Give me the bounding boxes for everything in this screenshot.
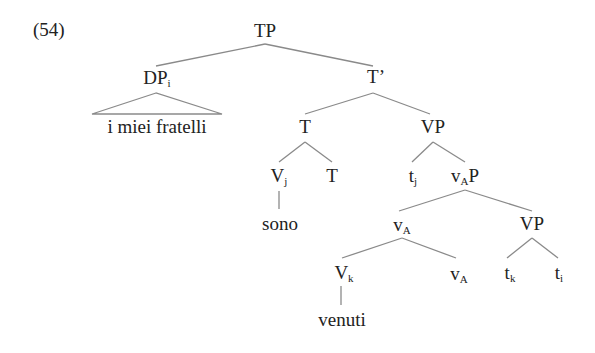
node-vap: vAP bbox=[451, 166, 479, 185]
node-tj: tj bbox=[409, 166, 417, 185]
node-vap-tail: P bbox=[468, 165, 479, 186]
node-tp-label: TP bbox=[254, 20, 276, 41]
node-t-lower-label: T bbox=[326, 165, 338, 186]
node-va-bar-label: v bbox=[393, 214, 403, 235]
node-vj: Vj bbox=[271, 166, 288, 185]
branch-vap-vp bbox=[465, 190, 532, 211]
branch-tbar-t bbox=[305, 93, 373, 114]
node-vj-label: V bbox=[271, 165, 285, 186]
node-va-bar-sub: A bbox=[403, 224, 411, 236]
node-vk-index: k bbox=[348, 272, 354, 284]
node-vp-lower-label: VP bbox=[520, 213, 544, 234]
node-dp-index: i bbox=[168, 77, 171, 89]
node-dp-label: DP bbox=[143, 67, 167, 88]
node-va-head: vA bbox=[450, 264, 467, 283]
branch-vap-va bbox=[399, 190, 465, 211]
node-dp-terminal: i miei fratelli bbox=[107, 117, 206, 136]
node-vp-upper: VP bbox=[421, 117, 445, 136]
venuti-text: venuti bbox=[318, 309, 366, 330]
node-vk-label: V bbox=[334, 262, 348, 283]
node-ti-index: i bbox=[560, 272, 563, 284]
node-t-head-label: T bbox=[299, 116, 311, 137]
node-venuti: venuti bbox=[318, 310, 366, 329]
branch-vp-tj bbox=[412, 142, 433, 162]
node-t-lower: T bbox=[326, 166, 338, 185]
node-vp-upper-label: VP bbox=[421, 116, 445, 137]
branch-t-t bbox=[305, 142, 332, 162]
node-vp-lower: VP bbox=[520, 214, 544, 233]
node-va-bar: vA bbox=[393, 215, 410, 234]
node-tbar: T’ bbox=[367, 67, 385, 86]
node-va-head-sub: A bbox=[460, 273, 468, 285]
example-number: (54) bbox=[33, 20, 65, 39]
node-ti: ti bbox=[555, 263, 563, 282]
branch-vp-ti bbox=[532, 238, 558, 258]
node-t-head: T bbox=[299, 117, 311, 136]
node-tk-index: k bbox=[510, 272, 516, 284]
node-vj-index: j bbox=[284, 175, 287, 187]
branch-tp-dp bbox=[156, 44, 265, 66]
node-dp: DPi bbox=[143, 68, 170, 87]
node-sono: sono bbox=[262, 214, 298, 233]
branch-vp-tk bbox=[507, 238, 532, 258]
branch-va-vk bbox=[342, 238, 402, 258]
dp-triangle bbox=[92, 93, 222, 114]
node-vk: Vk bbox=[334, 263, 353, 282]
tree-branches bbox=[0, 0, 595, 353]
branch-t-vj bbox=[279, 142, 305, 162]
node-tbar-label: T’ bbox=[367, 66, 385, 87]
branch-vp-vap bbox=[433, 142, 465, 162]
node-vap-main: v bbox=[451, 165, 461, 186]
node-tk: tk bbox=[505, 263, 516, 282]
node-tp: TP bbox=[254, 21, 276, 40]
node-tj-index: j bbox=[414, 175, 417, 187]
branch-tp-tbar bbox=[265, 44, 373, 66]
node-va-head-label: v bbox=[450, 263, 460, 284]
dp-terminal-text: i miei fratelli bbox=[107, 116, 206, 137]
branch-tbar-vp bbox=[373, 93, 430, 114]
branch-va-va bbox=[402, 238, 456, 258]
sono-text: sono bbox=[262, 213, 298, 234]
